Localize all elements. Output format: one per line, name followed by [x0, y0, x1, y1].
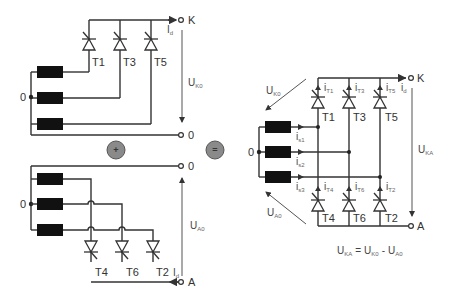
bridge-label-t4: T4	[322, 212, 335, 224]
neutral-label-upper: 0	[20, 91, 26, 103]
winding-2-icon	[37, 92, 63, 104]
terminal-0-lower	[179, 164, 184, 169]
current-it2: iT2	[386, 181, 396, 193]
svg-text:=: =	[212, 145, 217, 155]
bridge-voltage-a0-label: UA0	[267, 207, 282, 219]
current-it3: iT3	[355, 82, 365, 94]
winding-4-icon	[37, 173, 63, 185]
lower-circuit: 0 0 T4 T6 T2 A Id UA0	[20, 160, 205, 288]
current-is3: is3	[296, 181, 305, 193]
terminal-k	[179, 18, 184, 23]
current-it4: iT4	[324, 181, 334, 193]
current-it5: iT5	[386, 82, 396, 94]
bridge-terminal-k	[409, 76, 414, 81]
bridge-label-t3: T3	[353, 111, 366, 123]
diagram-canvas: K Id T1 T3 T5 0 0 UK0 +	[0, 0, 452, 296]
label-t2: T2	[156, 266, 169, 278]
terminal-a-lower	[179, 280, 184, 285]
bridge-label-t1: T1	[322, 111, 335, 123]
bridge-winding-3-icon	[265, 171, 291, 183]
terminal-0-upper-label: 0	[188, 129, 194, 141]
terminal-0-lower-label: 0	[188, 160, 194, 172]
winding-3-icon	[37, 118, 63, 130]
bridge-circuit: K id A iT1 iT3 iT5 T1 T3 T5 iT4 iT6 iT2 …	[248, 72, 433, 232]
winding-6-icon	[37, 224, 63, 236]
equals-operator: =	[206, 141, 224, 159]
terminal-0-upper	[179, 133, 184, 138]
winding-1-icon	[37, 66, 63, 78]
bridge-terminal-k-label: K	[417, 72, 425, 84]
plus-operator: +	[107, 141, 125, 159]
upper-circuit: K Id T1 T3 T5 0 0 UK0	[20, 14, 203, 141]
current-is2: is2	[296, 156, 305, 168]
current-is1: is1	[296, 131, 305, 143]
bridge-voltage-k0-label: UK0	[266, 85, 281, 97]
terminal-k-label: K	[188, 14, 196, 26]
neutral-label-lower: 0	[20, 198, 26, 210]
circuit-diagram: K Id T1 T3 T5 0 0 UK0 +	[0, 0, 452, 296]
bridge-terminal-a-label: A	[417, 220, 425, 232]
bridge-neutral-label: 0	[248, 146, 254, 158]
winding-5-icon	[37, 198, 63, 210]
bridge-winding-1-icon	[265, 121, 291, 133]
svg-text:+: +	[113, 145, 118, 155]
label-t3: T3	[123, 56, 136, 68]
bridge-current-id: id	[401, 82, 407, 94]
label-t6: T6	[126, 266, 139, 278]
current-id-lower-label: Id	[173, 267, 179, 279]
bridge-winding-2-icon	[265, 146, 291, 158]
label-t5: T5	[154, 56, 167, 68]
bridge-label-t6: T6	[353, 212, 366, 224]
current-it6: iT6	[355, 181, 365, 193]
terminal-a-lower-label: A	[188, 276, 196, 288]
voltage-ka-label: UKA	[418, 144, 433, 156]
label-t1: T1	[92, 56, 105, 68]
current-it1: iT1	[324, 82, 334, 94]
current-id-label: Id	[167, 24, 173, 36]
label-t4: T4	[95, 266, 108, 278]
voltage-k0-label: UK0	[188, 77, 203, 89]
bridge-label-t5: T5	[385, 111, 398, 123]
voltage-a0-label: UA0	[190, 220, 205, 232]
bridge-terminal-a	[409, 224, 414, 229]
bridge-label-t2: T2	[385, 212, 398, 224]
voltage-equation: UKA=UK0-UA0	[337, 245, 403, 257]
